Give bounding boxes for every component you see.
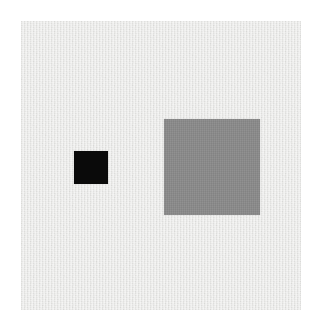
background-panel: [21, 21, 301, 310]
stimulus-canvas: [0, 0, 322, 329]
small-dark-square: [74, 151, 108, 184]
large-gray-square: [164, 119, 260, 215]
